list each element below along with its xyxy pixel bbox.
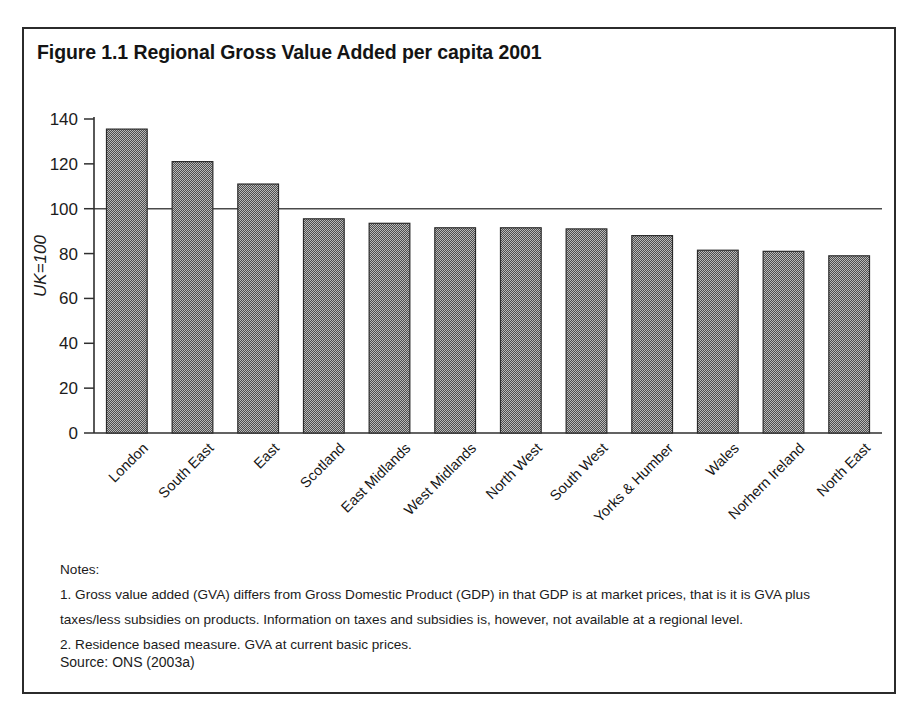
x-category-label: North West [483,440,545,502]
note-line: 1. Gross value added (GVA) differs from … [60,582,870,607]
bar-london [106,129,147,433]
bar-north-east [829,256,870,433]
bar-wales [697,250,738,433]
y-axis-title: UK=100 [31,235,50,297]
bar-yorks-humber [632,236,673,433]
x-category-label: East [250,440,282,472]
bar-norhern-ireland [763,251,804,433]
x-category-label: London [105,440,151,486]
y-axis-ticks: 020406080100120140 [50,110,94,443]
y-axis-title-text: UK=100 [31,235,50,297]
bar-east [238,184,279,433]
y-tick-label: 120 [50,155,78,174]
source-line: Source: ONS (2003a) [60,654,195,670]
notes-heading: Notes: [60,557,870,582]
y-tick-label: 80 [59,245,78,264]
x-axis-category-labels: LondonSouth EastEastScotlandEast Midland… [105,440,873,526]
bar-east-midlands [369,223,410,433]
y-tick-label: 60 [59,289,78,308]
y-tick-label: 100 [50,200,78,219]
x-category-label: Wales [703,440,742,479]
bar-north-west [500,228,541,433]
x-category-label: North East [814,440,874,500]
y-tick-label: 20 [59,379,78,398]
bar-south-east [172,162,213,433]
x-category-label: South East [155,440,216,501]
x-category-label: Scotland [297,440,348,491]
bars-group [106,129,869,433]
bar-scotland [303,219,344,433]
y-tick-label: 40 [59,334,78,353]
note-line: taxes/less subsidies on products. Inform… [60,607,870,632]
y-tick-label: 0 [69,424,78,443]
bar-west-midlands [435,228,476,433]
notes-block: Notes: 1. Gross value added (GVA) differ… [60,557,870,657]
figure-frame: Figure 1.1 Regional Gross Value Added pe… [22,27,896,694]
bar-south-west [566,229,607,433]
y-tick-label: 140 [50,110,78,129]
x-category-label: South West [546,440,610,504]
